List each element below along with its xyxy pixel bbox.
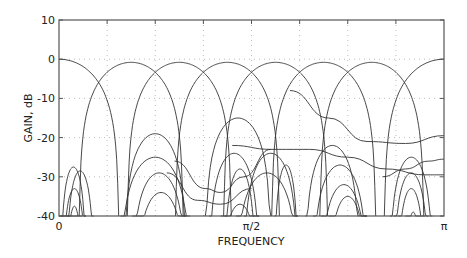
sidelobe bbox=[321, 185, 367, 216]
stopband-tail bbox=[175, 149, 271, 192]
stopband-tail bbox=[232, 145, 444, 174]
y-tick-label: 0 bbox=[48, 53, 55, 66]
x-tick-label: 0 bbox=[56, 220, 63, 233]
x-axis-title: FREQUENCY bbox=[217, 235, 284, 248]
y-tick-label: 10 bbox=[41, 14, 55, 27]
sidelobe bbox=[398, 189, 425, 216]
chart: 100-10-20-30-400π/2π FREQUENCY GAIN, dB bbox=[0, 0, 467, 258]
x-tick-label: π bbox=[441, 220, 448, 233]
sidelobe bbox=[305, 145, 359, 216]
y-tick-label: -10 bbox=[37, 92, 55, 105]
sidelobe bbox=[390, 157, 432, 216]
filter-responses bbox=[59, 59, 444, 216]
sidelobe bbox=[205, 118, 270, 216]
x-tick-label: π/2 bbox=[243, 220, 260, 233]
sidelobe bbox=[63, 189, 86, 216]
plot-frame bbox=[59, 20, 444, 216]
y-axis-title: GAIN, dB bbox=[22, 93, 35, 142]
sidelobe bbox=[329, 196, 368, 216]
grid bbox=[59, 20, 444, 216]
y-tick-label: -40 bbox=[37, 210, 55, 223]
sidelobe bbox=[61, 167, 86, 216]
sidelobe bbox=[221, 204, 260, 216]
axis-ticks: 100-10-20-30-400π/2π bbox=[37, 14, 448, 233]
y-tick-label: -30 bbox=[37, 171, 55, 184]
y-tick-label: -20 bbox=[37, 132, 55, 145]
stopband-tail bbox=[290, 91, 444, 144]
